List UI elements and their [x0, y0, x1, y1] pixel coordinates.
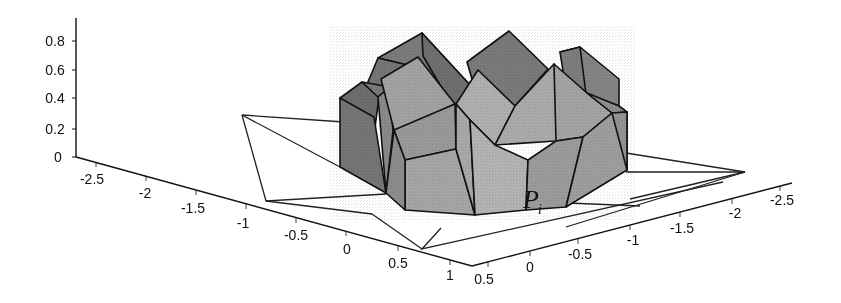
dither-overlay [330, 25, 635, 220]
z-tick-label: 0 [54, 149, 62, 165]
x-tick-label: 1 [446, 267, 454, 283]
y-tick-label: 0 [526, 259, 534, 275]
y-tick-label: -2.5 [770, 192, 794, 208]
z-tick-label: 0.4 [45, 90, 65, 106]
x-tick-label: -1 [237, 215, 250, 231]
x-tick-label: 0 [343, 241, 351, 257]
annotation-p: P [522, 185, 539, 214]
x-tick-label: -1.5 [181, 200, 205, 216]
y-tick-label: -2 [729, 205, 742, 221]
z-tick-label: 0.6 [45, 62, 65, 78]
x-tick-label: -2.5 [80, 171, 104, 187]
x-tick-label: -0.5 [284, 227, 308, 243]
surface-plot: 0 0.2 0.4 0.6 0.8 -2.5 -2 -1.5 -1 -0.5 0… [0, 0, 841, 303]
x-tick-label: -2 [139, 185, 152, 201]
z-axis: 0 0.2 0.4 0.6 0.8 [45, 18, 76, 165]
y-tick-label: -0.5 [568, 246, 592, 262]
z-tick-label: 0.8 [45, 33, 65, 49]
y-tick-label: -1 [627, 232, 640, 248]
annotation-subscript: i [538, 202, 542, 217]
y-tick-label: 0.5 [474, 271, 494, 287]
x-tick-label: 0.5 [388, 255, 408, 271]
z-tick-label: 0.2 [45, 121, 65, 137]
y-tick-label: -1.5 [670, 220, 694, 236]
